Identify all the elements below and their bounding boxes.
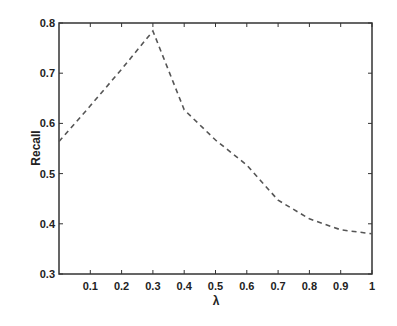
plot-frame xyxy=(59,23,372,274)
y-tick-label: 0.4 xyxy=(40,218,56,230)
y-tick-label: 0.5 xyxy=(40,168,55,180)
x-tick-label: 0.6 xyxy=(239,280,254,292)
y-tick-label: 0.7 xyxy=(40,67,55,79)
y-tick-label: 0.6 xyxy=(40,117,55,129)
x-tick-label: 0.3 xyxy=(145,280,160,292)
x-tick-label: 0.8 xyxy=(302,280,317,292)
recall-line xyxy=(59,31,372,234)
y-tick-label: 0.3 xyxy=(40,268,55,280)
x-axis-label: λ xyxy=(213,294,220,308)
axis-ticks xyxy=(59,23,372,274)
x-tick-label: 0.9 xyxy=(333,280,348,292)
y-tick-label: 0.8 xyxy=(40,17,55,29)
x-tick-label: 0.1 xyxy=(83,280,98,292)
y-axis-label: Recall xyxy=(29,130,43,165)
x-tick-label: 0.5 xyxy=(208,280,223,292)
x-tick-label: 0.7 xyxy=(270,280,285,292)
x-tick-label: 0.2 xyxy=(114,280,129,292)
recall-vs-lambda-chart: 0.10.20.30.40.50.60.70.80.910.30.40.50.6… xyxy=(0,0,397,326)
tick-labels: 0.10.20.30.40.50.60.70.80.910.30.40.50.6… xyxy=(40,17,375,292)
x-tick-label: 0.4 xyxy=(177,280,193,292)
x-tick-label: 1 xyxy=(369,280,375,292)
